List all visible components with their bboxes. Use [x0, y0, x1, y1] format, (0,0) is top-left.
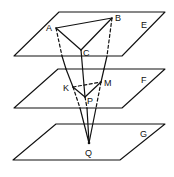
segment-b-m-upper-dashed	[107, 18, 112, 56]
label-point-p: P	[87, 96, 93, 106]
label-plane-g: G	[140, 129, 147, 139]
label-plane-f: F	[141, 75, 147, 85]
label-plane-e: E	[141, 20, 147, 30]
segment-b-m-solid	[104, 56, 107, 69]
point-q-dot	[88, 142, 91, 145]
label-point-a: A	[46, 23, 52, 33]
plane-e	[14, 12, 165, 56]
segment-m-q-solid	[89, 108, 96, 143]
label-point-m: M	[104, 78, 112, 88]
three-parallel-planes-diagram: E F G A B C K M P Q	[0, 0, 174, 177]
label-point-q: Q	[85, 148, 92, 158]
label-point-c: C	[83, 48, 90, 58]
segment-a-k-solid	[62, 56, 66, 69]
label-point-b: B	[115, 13, 121, 23]
label-point-k: K	[63, 83, 69, 93]
